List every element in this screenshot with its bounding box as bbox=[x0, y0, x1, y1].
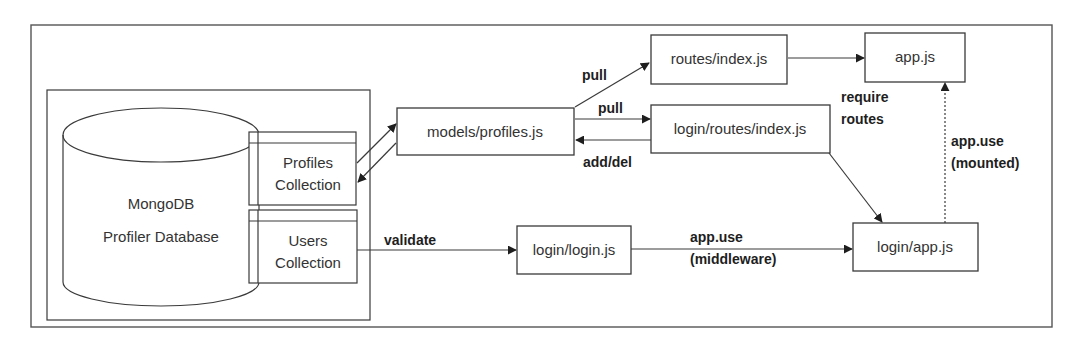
users-collection-line1: Users bbox=[288, 232, 327, 249]
node-routes-index[interactable]: routes/index.js bbox=[651, 35, 787, 84]
label-require: require bbox=[841, 89, 889, 105]
label-validate: validate bbox=[384, 232, 436, 248]
database-group: MongoDB Profiler Database Profiles Colle… bbox=[47, 90, 370, 320]
label-pull-top: pull bbox=[582, 67, 607, 83]
profiles-collection[interactable]: Profiles Collection bbox=[249, 132, 356, 205]
label-routes: routes bbox=[841, 111, 884, 127]
label-add-del: add/del bbox=[583, 154, 632, 170]
users-collection[interactable]: Users Collection bbox=[249, 210, 357, 283]
node-login-app-label: login/app.js bbox=[877, 238, 953, 255]
node-login-app[interactable]: login/app.js bbox=[853, 223, 978, 271]
edge-models-to-profiles bbox=[358, 143, 396, 182]
architecture-diagram: MongoDB Profiler Database Profiles Colle… bbox=[0, 0, 1076, 348]
node-models-profiles-label: models/profiles.js bbox=[427, 123, 543, 140]
label-pull-mid: pull bbox=[598, 100, 623, 116]
node-models-profiles[interactable]: models/profiles.js bbox=[397, 108, 574, 155]
edge-login-routes-to-login-app bbox=[829, 153, 882, 222]
node-app[interactable]: app.js bbox=[865, 33, 965, 82]
node-app-label: app.js bbox=[895, 48, 935, 65]
edge-profiles-to-models bbox=[357, 124, 396, 163]
label-appuse-middleware-2: (middleware) bbox=[690, 251, 776, 267]
profiles-collection-line1: Profiles bbox=[283, 154, 333, 171]
label-appuse-mounted-1: app.use bbox=[951, 133, 1004, 149]
node-login-login-label: login/login.js bbox=[533, 241, 616, 258]
label-appuse-mounted-2: (mounted) bbox=[951, 155, 1019, 171]
users-collection-line2: Collection bbox=[275, 254, 341, 271]
database-title: MongoDB bbox=[128, 195, 195, 212]
profiles-collection-line2: Collection bbox=[275, 176, 341, 193]
node-login-routes-index[interactable]: login/routes/index.js bbox=[651, 105, 830, 153]
node-login-routes-index-label: login/routes/index.js bbox=[674, 120, 807, 137]
node-login-login[interactable]: login/login.js bbox=[517, 226, 631, 274]
label-appuse-middleware-1: app.use bbox=[690, 229, 743, 245]
node-routes-index-label: routes/index.js bbox=[671, 50, 768, 67]
database-subtitle: Profiler Database bbox=[103, 228, 219, 245]
